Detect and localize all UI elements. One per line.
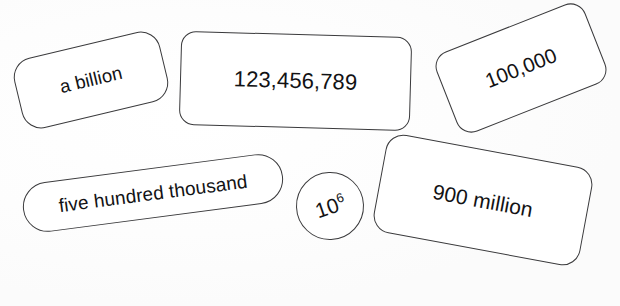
number-cards-sheet: a billion 123,456,789 100,000 five hundr… [0,0,620,306]
card-a-billion[interactable]: a billion [10,27,173,132]
card-900-million[interactable]: 900 million [371,132,596,269]
card-123456789[interactable]: 123,456,789 [179,31,413,131]
card-ten-to-sixth[interactable]: 106 [295,171,365,241]
card-five-hundred-thousand[interactable]: five hundred thousand [20,151,286,235]
card-900-million-label: 900 million [431,180,535,219]
card-100000[interactable]: 100,000 [431,0,611,137]
card-123456789-label: 123,456,789 [233,68,357,93]
card-100000-label: 100,000 [482,45,559,91]
card-a-billion-label: a billion [58,64,124,97]
card-ten-to-sixth-label: 106 [312,191,348,221]
card-five-hundred-thousand-label: five hundred thousand [57,171,248,215]
